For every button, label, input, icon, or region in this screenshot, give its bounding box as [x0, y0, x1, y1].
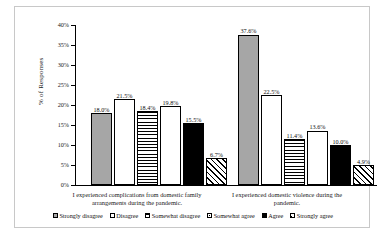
legend-label: Strongly agree: [297, 212, 333, 219]
bar-value-label: 21.5%: [117, 93, 133, 99]
bar-value-label: 18.0%: [94, 107, 110, 113]
bar-value-label: 11.4%: [287, 133, 303, 139]
y-tick-label: 30%: [58, 62, 69, 68]
y-tick: [71, 105, 75, 106]
bar-g1-agree: 15.5%: [183, 123, 204, 185]
bar-g1-disagree: 21.5%: [114, 99, 135, 185]
bar-value-label: 15.5%: [186, 117, 202, 123]
y-tick-label: 25%: [58, 82, 69, 88]
y-axis-title: % of Responses: [37, 57, 45, 105]
y-tick: [71, 185, 75, 186]
bar-value-label: 13.6%: [310, 124, 326, 130]
legend-item-strongly-disagree: Strongly disagree: [53, 212, 103, 219]
legend-label: Agree: [268, 212, 283, 219]
legend-swatch-icon: [262, 213, 267, 218]
y-tick: [71, 165, 75, 166]
bar-value-label: 22.5%: [264, 89, 280, 95]
category-label-line: arrangements during the pandemic.: [61, 199, 213, 207]
y-tick-label: 10%: [58, 142, 69, 148]
y-tick-label: 15%: [58, 122, 69, 128]
y-tick: [71, 45, 75, 46]
y-tick-label: 20%: [58, 102, 69, 108]
bar-value-label: 4.9%: [357, 159, 370, 165]
category-label-line: I experienced complications from domesti…: [61, 191, 213, 199]
legend-label: Somewhat agree: [214, 212, 255, 219]
legend-swatch-icon: [290, 213, 295, 218]
y-tick: [71, 125, 75, 126]
legend-item-agree: Agree: [262, 212, 284, 219]
chart-legend: Strongly disagree Disagree Somewhat disa…: [31, 212, 355, 219]
y-tick: [71, 65, 75, 66]
y-tick-label: 35%: [58, 42, 69, 48]
y-tick: [71, 25, 75, 26]
legend-swatch-icon: [207, 213, 212, 218]
y-tick-label: 5%: [61, 162, 69, 168]
y-axis-line: [75, 25, 76, 185]
bar-value-label: 6.7%: [210, 152, 223, 158]
bar-g2-somewhat-disagree: 11.4%: [284, 139, 305, 185]
category-label-line: I experienced domestic violence during t…: [213, 191, 361, 199]
category-label-group-1: I experienced complications from domesti…: [61, 191, 213, 207]
legend-item-somewhat-disagree: Somewhat disagree: [145, 212, 200, 219]
bar-g2-disagree: 22.5%: [261, 95, 282, 185]
legend-label: Strongly disagree: [59, 212, 102, 219]
x-axis-line: [75, 185, 377, 186]
chart-frame: % of Responses 40% 35% 30% 25% 20% 15% 1…: [14, 6, 370, 228]
bar-g1-somewhat-agree: 19.8%: [160, 106, 181, 185]
category-label-line: pandemic.: [213, 199, 361, 207]
legend-item-strongly-agree: Strongly agree: [290, 212, 333, 219]
bar-g2-strongly-agree: 4.9%: [353, 165, 374, 185]
bar-g2-strongly-disagree: 37.6%: [238, 35, 259, 185]
legend-swatch-icon: [110, 213, 115, 218]
category-label-group-2: I experienced domestic violence during t…: [213, 191, 361, 207]
chart-root: % of Responses 40% 35% 30% 25% 20% 15% 1…: [0, 0, 384, 240]
bar-value-label: 19.8%: [163, 100, 179, 106]
y-tick-label: 40%: [58, 22, 69, 28]
y-tick: [71, 145, 75, 146]
bar-value-label: 10.0%: [333, 139, 349, 145]
legend-item-disagree: Disagree: [110, 212, 139, 219]
y-tick-label: 0%: [61, 182, 69, 188]
legend-swatch-icon: [53, 213, 58, 218]
legend-item-somewhat-agree: Somewhat agree: [207, 212, 255, 219]
bar-value-label: 18.4%: [140, 105, 156, 111]
bar-g2-somewhat-agree: 13.6%: [307, 131, 328, 185]
legend-label: Somewhat disagree: [152, 212, 200, 219]
bar-g1-strongly-disagree: 18.0%: [91, 113, 112, 185]
bar-g1-somewhat-disagree: 18.4%: [137, 111, 158, 185]
legend-swatch-icon: [145, 213, 150, 218]
bar-value-label: 37.6%: [241, 28, 257, 34]
y-tick: [71, 85, 75, 86]
bar-g1-strongly-agree: 6.7%: [206, 158, 227, 185]
bar-g2-agree: 10.0%: [330, 145, 351, 185]
plot-area: 40% 35% 30% 25% 20% 15% 10% 5% 0% 18.0% …: [75, 25, 375, 185]
legend-label: Disagree: [116, 212, 138, 219]
